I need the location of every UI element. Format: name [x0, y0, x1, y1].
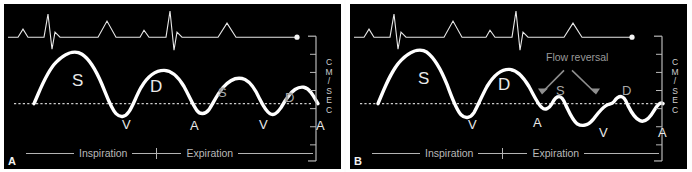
panel-a: S V D A S V D A C M / S E C Inspiration — [0, 0, 344, 172]
flow-reversal-annotation: Flow reversal — [546, 52, 608, 63]
wave-label-a2: A — [658, 126, 667, 139]
ecg-end-marker — [629, 35, 634, 40]
resp-line-left — [372, 153, 420, 154]
wave-label-d1: D — [150, 78, 162, 95]
respiration-bar: Inspiration Expiration — [350, 146, 687, 160]
resp-line-left — [26, 153, 74, 154]
wave-label-a1: A — [190, 119, 199, 132]
wave-label-s2: S — [218, 86, 227, 99]
wave-label-a2: A — [316, 119, 325, 132]
ecg-trace — [354, 11, 635, 50]
wave-label-v1: V — [122, 118, 131, 131]
resp-line-mid-right — [503, 153, 527, 154]
expiration-label: Expiration — [186, 147, 233, 159]
resp-line-mid-left — [132, 153, 156, 154]
axis-units-label: C M / S E C — [323, 58, 335, 115]
resp-line-mid-right — [157, 153, 181, 154]
resp-line-right — [584, 153, 659, 154]
axis-unit-char-c2: C — [669, 106, 681, 116]
expiration-label: Expiration — [532, 147, 579, 159]
panel-b-waveform-svg — [350, 4, 687, 169]
resp-line-right — [238, 153, 313, 154]
axis-unit-char-c2: C — [323, 106, 335, 116]
panel-a-display: S V D A S V D A C M / S E C Inspiration — [4, 4, 341, 169]
wave-label-d2: D — [285, 91, 294, 104]
panel-label-b: B — [354, 156, 362, 167]
wave-label-d1: D — [498, 76, 510, 93]
wave-label-s1: S — [418, 70, 429, 87]
ecg-end-marker — [294, 35, 299, 40]
wave-label-d2: D — [622, 84, 631, 97]
panel-a-waveform-svg — [4, 4, 341, 169]
vertical-scale-axis — [654, 36, 662, 161]
respiration-bar: Inspiration Expiration — [4, 146, 341, 160]
wave-label-a1: A — [533, 116, 542, 129]
wave-label-s2: S — [556, 84, 565, 97]
wave-label-v2: V — [259, 118, 268, 131]
panel-b-display: Flow reversal S V D A S V D A C M / S E … — [350, 4, 687, 169]
flow-reversal-arrows — [538, 70, 600, 94]
inspiration-label: Inspiration — [79, 147, 127, 159]
wave-label-v1: V — [468, 118, 477, 131]
panel-b: Flow reversal S V D A S V D A C M / S E … — [346, 0, 690, 172]
doppler-waveform-figure: S V D A S V D A C M / S E C Inspiration — [0, 0, 692, 172]
axis-units-label: C M / S E C — [669, 58, 681, 115]
panel-label-a: A — [8, 156, 16, 167]
resp-line-mid-left — [478, 153, 502, 154]
ecg-trace — [8, 11, 300, 50]
wave-label-s1: S — [72, 72, 83, 89]
wave-label-v2: V — [599, 126, 608, 139]
inspiration-label: Inspiration — [425, 147, 473, 159]
